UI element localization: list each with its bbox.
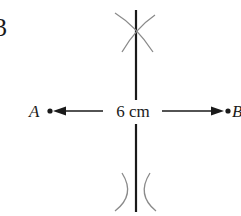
- question-number: 3: [0, 13, 7, 42]
- diagram-canvas: 3 A B 6 cm: [0, 0, 241, 216]
- length-label: 6 cm: [116, 102, 150, 121]
- point-a-dot: [47, 108, 52, 113]
- construction-diagram: 3 A B 6 cm: [0, 0, 241, 216]
- arrowhead-right-icon: [211, 107, 224, 116]
- arrowhead-left-icon: [53, 107, 66, 116]
- point-b-label: B: [232, 102, 241, 121]
- point-b-dot: [225, 108, 230, 113]
- point-a-label: A: [28, 102, 40, 121]
